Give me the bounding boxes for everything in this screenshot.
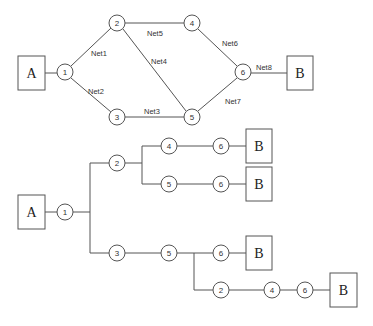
svg-text:B: B	[254, 177, 263, 192]
tree-node-1: 1	[57, 204, 73, 220]
svg-text:6: 6	[219, 142, 224, 151]
edge-label-net4: Net4	[151, 57, 167, 66]
node-4: 4	[184, 15, 200, 31]
svg-text:1: 1	[63, 68, 68, 77]
svg-text:B: B	[339, 283, 348, 298]
tree-node-5: 5	[161, 245, 177, 261]
tree-node-6: 6	[213, 138, 229, 154]
svg-text:3: 3	[115, 249, 120, 258]
svg-text:6: 6	[303, 286, 308, 295]
tree-source-box-a: A	[18, 195, 45, 229]
tree-node-2: 2	[109, 155, 125, 171]
svg-text:5: 5	[190, 113, 195, 122]
edge-label-net7: Net7	[225, 97, 241, 106]
node-5: 5	[184, 109, 200, 125]
svg-text:B: B	[295, 66, 304, 81]
tree-target-box-b-4: B	[330, 273, 357, 307]
node-1: 1	[57, 64, 73, 80]
tree-node-4: 4	[264, 282, 280, 298]
tree-node-6: 6	[297, 282, 313, 298]
top-graph: Net1 Net2 Net3 Net4 Net5 Net6 Net7 Net8 …	[18, 15, 313, 125]
node-3: 3	[109, 109, 125, 125]
svg-text:3: 3	[115, 113, 120, 122]
tree-target-box-b-2: B	[246, 167, 272, 201]
tree-node-6: 6	[213, 245, 229, 261]
tree-node-2: 2	[213, 282, 229, 298]
svg-text:B: B	[254, 246, 263, 261]
edge-label-net1: Net1	[91, 49, 107, 58]
tree-target-box-b-1: B	[246, 129, 272, 163]
svg-text:A: A	[26, 66, 37, 81]
node-6: 6	[235, 64, 251, 80]
target-box-b: B	[287, 56, 313, 90]
edge-label-net3: Net3	[144, 107, 160, 116]
svg-text:4: 4	[190, 19, 195, 28]
edge-label-net2: Net2	[88, 87, 104, 96]
tree-node-5: 5	[161, 176, 177, 192]
tree-node-6: 6	[213, 176, 229, 192]
svg-text:5: 5	[167, 180, 172, 189]
svg-text:6: 6	[219, 249, 224, 258]
svg-text:A: A	[26, 205, 37, 220]
svg-text:2: 2	[115, 19, 120, 28]
svg-text:2: 2	[115, 159, 120, 168]
edge-label-net8: Net8	[256, 63, 272, 72]
tree-node-3: 3	[109, 245, 125, 261]
svg-text:B: B	[254, 139, 263, 154]
svg-text:1: 1	[63, 208, 68, 217]
svg-text:5: 5	[167, 249, 172, 258]
svg-text:2: 2	[219, 286, 224, 295]
path-tree: A B B B B 1 2 4 6 5 6 3 5 6 2 4 6	[18, 129, 357, 307]
node-2: 2	[109, 15, 125, 31]
tree-node-4: 4	[161, 138, 177, 154]
edge-label-net5: Net5	[147, 29, 163, 38]
svg-text:4: 4	[167, 142, 172, 151]
source-box-a: A	[18, 56, 45, 90]
edge-label-net6: Net6	[222, 39, 238, 48]
svg-text:4: 4	[270, 286, 275, 295]
tree-target-box-b-3: B	[246, 236, 272, 270]
network-diagram: Net1 Net2 Net3 Net4 Net5 Net6 Net7 Net8 …	[0, 0, 373, 326]
svg-text:6: 6	[241, 68, 246, 77]
svg-text:6: 6	[219, 180, 224, 189]
